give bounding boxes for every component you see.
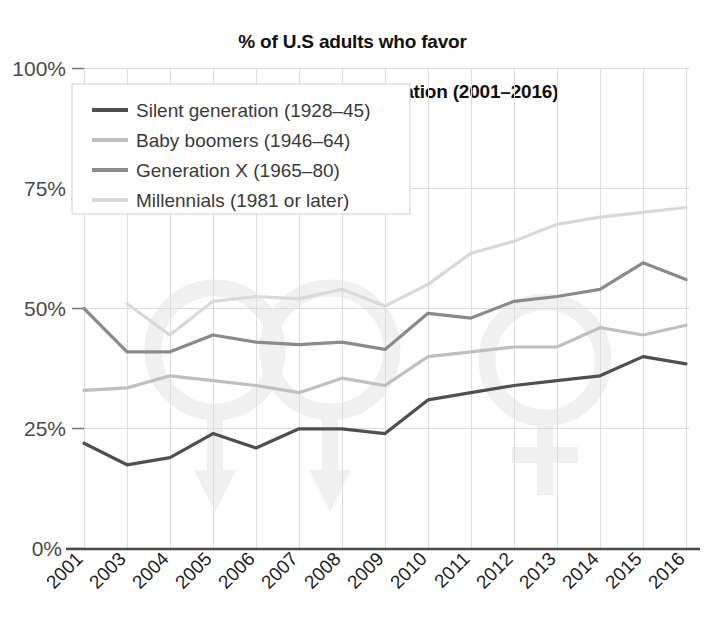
x-tick-label-2003: 2003 xyxy=(85,548,130,593)
series-line-millennials-1981-or-later xyxy=(127,208,686,336)
x-tick-label-2010: 2010 xyxy=(386,548,431,593)
x-tick-label-2011: 2011 xyxy=(430,548,474,592)
legend-item-label: Baby boomers (1946–64) xyxy=(136,130,350,151)
chart-container: % of U.S adults who favor same-sex marri… xyxy=(0,0,705,633)
watermark-circle-right xyxy=(487,302,603,418)
x-tick-label-2009: 2009 xyxy=(343,548,388,593)
x-tick-label-2016: 2016 xyxy=(644,548,689,593)
y-tick-label-50: 50% xyxy=(24,297,66,320)
x-tick-label-2007: 2007 xyxy=(257,548,302,593)
x-tick-label-2006: 2006 xyxy=(214,548,259,593)
x-axis-tick-labels: 2001200320042005200620072008200920102011… xyxy=(42,548,689,593)
y-axis-tick-labels: 100% 75% 50% 25% 0% xyxy=(12,57,66,560)
legend-item-label: Generation X (1965–80) xyxy=(136,160,340,181)
y-tick-label-75: 75% xyxy=(24,177,66,200)
line-chart-plot: 100% 75% 50% 25% 0% 20012003200420052006… xyxy=(0,0,705,633)
legend-item-label: Millennials (1981 or later) xyxy=(136,190,349,211)
x-tick-label-2015: 2015 xyxy=(601,548,646,593)
x-tick-label-2013: 2013 xyxy=(515,548,560,593)
x-tick-label-2004: 2004 xyxy=(128,548,173,593)
gender-symbols-watermark xyxy=(153,288,603,512)
y-tick-label-100: 100% xyxy=(12,57,66,80)
y-tick-label-0: 0% xyxy=(32,537,62,560)
x-tick-label-2012: 2012 xyxy=(472,548,517,593)
chart-legend[interactable]: Silent generation (1928–45)Baby boomers … xyxy=(72,84,410,214)
x-tick-label-2005: 2005 xyxy=(171,548,216,593)
legend-item-label: Silent generation (1928–45) xyxy=(136,100,371,121)
y-tick-label-25: 25% xyxy=(24,417,66,440)
watermark-circle-mid xyxy=(268,288,392,412)
x-tick-label-2014: 2014 xyxy=(558,548,603,593)
x-tick-label-2008: 2008 xyxy=(300,548,345,593)
